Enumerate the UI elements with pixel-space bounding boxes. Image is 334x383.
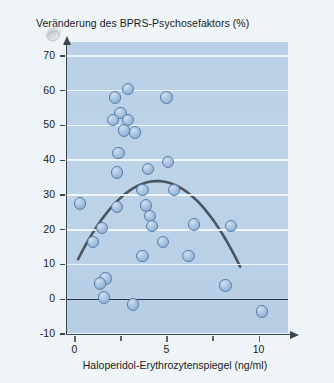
data-point <box>87 236 99 248</box>
data-point <box>111 166 123 178</box>
chart-title: Veränderung des BPRS-Psychosefaktors (%) <box>36 17 249 29</box>
gridline <box>67 125 288 127</box>
data-point <box>127 298 139 310</box>
gridline <box>67 159 288 161</box>
data-point <box>219 279 231 291</box>
y-tick-label: 50 <box>15 118 55 130</box>
gridline <box>67 264 288 266</box>
y-tick-mark <box>60 229 65 230</box>
y-tick-label: 0 <box>15 292 55 304</box>
x-tick-mark <box>259 336 260 342</box>
x-tick-mark <box>166 336 167 342</box>
x-tick-label: 10 <box>244 343 274 355</box>
data-point <box>94 277 106 289</box>
y-tick-label: 70 <box>15 49 55 61</box>
y-tick-mark <box>60 194 65 195</box>
y-tick-mark <box>60 264 65 265</box>
data-point <box>74 197 86 209</box>
y-tick-mark <box>60 55 65 56</box>
plot-area <box>67 42 288 334</box>
x-axis-title-label: Haloperidol-Erythrozytenspiegel (ng/ml) <box>67 359 267 371</box>
x-tick-label: 0 <box>59 343 89 355</box>
y-tick-label: 30 <box>15 188 55 200</box>
y-tick-mark <box>60 333 65 334</box>
y-tick-label: 10 <box>15 257 55 269</box>
data-point <box>109 91 121 103</box>
data-point <box>112 147 124 159</box>
x-axis-arrow-icon <box>290 331 299 339</box>
x-axis-line <box>67 334 291 335</box>
data-point <box>168 184 180 196</box>
y-tick-label: 60 <box>15 84 55 96</box>
data-point <box>188 218 200 230</box>
data-point <box>129 126 141 138</box>
data-point <box>157 236 169 248</box>
x-axis-title: Haloperidol-Erythrozytenspiegel (ng/ml) <box>0 359 334 371</box>
data-point <box>160 91 172 103</box>
figure: Veränderung des BPRS-Psychosefaktors (%)… <box>0 0 334 383</box>
y-tick-label: 40 <box>15 153 55 165</box>
x-tick-mark <box>74 336 75 342</box>
x-minor-tick-mark <box>212 336 213 341</box>
y-tick-label: -10 <box>15 327 55 339</box>
gridline <box>67 55 288 57</box>
y-tick-mark <box>60 299 65 300</box>
y-tick-mark <box>60 90 65 91</box>
y-axis-line <box>66 44 67 335</box>
y-tick-mark <box>60 160 65 161</box>
data-point <box>98 291 110 303</box>
x-tick-label: 5 <box>151 343 181 355</box>
gridline <box>67 90 288 92</box>
data-point <box>256 305 268 317</box>
y-tick-label: 20 <box>15 223 55 235</box>
y-axis-arrow-icon <box>63 36 71 45</box>
data-point <box>182 250 194 262</box>
x-minor-tick-mark <box>120 336 121 341</box>
data-point <box>136 184 148 196</box>
data-point <box>136 250 148 262</box>
y-tick-mark <box>60 125 65 126</box>
data-point <box>122 83 134 95</box>
